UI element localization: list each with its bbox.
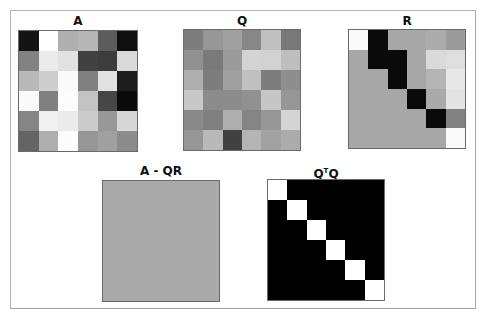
matrix-cell xyxy=(261,30,280,50)
matrix-cell xyxy=(426,128,445,148)
matrix-cell xyxy=(281,50,300,70)
matrix-cell xyxy=(368,128,387,148)
matrix-cell xyxy=(117,71,137,91)
matrix-cell xyxy=(281,130,300,150)
matrix-cell xyxy=(368,109,387,129)
heatmap-r xyxy=(348,29,466,149)
heatmap-a xyxy=(18,30,138,152)
matrix-cell xyxy=(388,109,407,129)
matrix-cell xyxy=(39,111,59,131)
matrix-cell xyxy=(349,128,368,148)
matrix-cell xyxy=(388,69,407,89)
matrix-cell xyxy=(261,90,280,110)
matrix-cell xyxy=(388,30,407,50)
matrix-cell xyxy=(365,180,384,200)
matrix-cell xyxy=(261,70,280,90)
matrix-cell xyxy=(281,30,300,50)
matrix-cell xyxy=(345,240,364,260)
matrix-cell xyxy=(349,69,368,89)
matrix-cell xyxy=(268,240,287,260)
matrix-cell xyxy=(98,91,118,111)
matrix-cell xyxy=(287,260,306,280)
matrix-cell xyxy=(365,200,384,220)
matrix-cell xyxy=(349,89,368,109)
heatmap-q xyxy=(183,29,301,151)
matrix-cell xyxy=(39,131,59,151)
matrix-cell xyxy=(287,220,306,240)
matrix-cell xyxy=(19,71,39,91)
matrix-cell xyxy=(345,200,364,220)
matrix-cell xyxy=(223,30,242,50)
matrix-cell xyxy=(223,110,242,130)
matrix-cell xyxy=(261,110,280,130)
matrix-cell xyxy=(326,180,345,200)
matrix-cell xyxy=(223,70,242,90)
matrix-cell xyxy=(242,130,261,150)
matrix-cell xyxy=(307,260,326,280)
matrix-cell xyxy=(268,200,287,220)
matrix-cell xyxy=(184,110,203,130)
matrix-cell xyxy=(426,69,445,89)
matrix-cell xyxy=(407,109,426,129)
matrix-cell xyxy=(78,131,98,151)
matrix-cell xyxy=(446,30,465,50)
matrix-cell xyxy=(98,71,118,91)
matrix-cell xyxy=(426,50,445,70)
matrix-cell xyxy=(203,70,222,90)
matrix-cell xyxy=(58,71,78,91)
matrix-cell xyxy=(407,30,426,50)
heatmap-residual xyxy=(102,180,220,302)
matrix-cell xyxy=(365,240,384,260)
matrix-cell xyxy=(223,90,242,110)
matrix-cell xyxy=(184,30,203,50)
matrix-cell xyxy=(39,91,59,111)
matrix-cell xyxy=(78,71,98,91)
matrix-cell xyxy=(345,280,364,300)
panel-title-residual: A - QR xyxy=(102,164,220,178)
matrix-cell xyxy=(58,31,78,51)
matrix-cell xyxy=(446,109,465,129)
matrix-cell xyxy=(326,240,345,260)
matrix-cell xyxy=(368,89,387,109)
matrix-cell xyxy=(39,71,59,91)
matrix-cell xyxy=(58,131,78,151)
matrix-cell xyxy=(287,240,306,260)
matrix-cell xyxy=(365,280,384,300)
matrix-cell xyxy=(365,260,384,280)
matrix-cell xyxy=(326,280,345,300)
matrix-cell xyxy=(242,30,261,50)
matrix-cell xyxy=(242,110,261,130)
matrix-cell xyxy=(349,109,368,129)
matrix-cell xyxy=(268,220,287,240)
matrix-cell xyxy=(426,109,445,129)
matrix-cell xyxy=(58,111,78,131)
matrix-cell xyxy=(307,200,326,220)
matrix-cell xyxy=(307,280,326,300)
matrix-cell xyxy=(446,69,465,89)
matrix-cell xyxy=(203,130,222,150)
matrix-cell xyxy=(368,30,387,50)
matrix-cell xyxy=(287,280,306,300)
matrix-cell xyxy=(203,90,222,110)
matrix-cell xyxy=(19,131,39,151)
matrix-cell xyxy=(307,240,326,260)
matrix-cell xyxy=(307,220,326,240)
matrix-cell xyxy=(345,180,364,200)
matrix-cell xyxy=(117,31,137,51)
matrix-cell xyxy=(98,111,118,131)
matrix-cell xyxy=(287,200,306,220)
matrix-cell xyxy=(203,110,222,130)
panel-title-a: A xyxy=(18,14,138,28)
matrix-cell xyxy=(78,31,98,51)
heatmap-qtq xyxy=(267,179,385,301)
matrix-cell xyxy=(261,50,280,70)
matrix-cell xyxy=(117,91,137,111)
matrix-cell xyxy=(349,50,368,70)
matrix-cell xyxy=(388,89,407,109)
matrix-cell xyxy=(326,200,345,220)
matrix-cell xyxy=(78,51,98,71)
matrix-cell xyxy=(78,91,98,111)
matrix-cell xyxy=(388,50,407,70)
matrix-cell xyxy=(98,31,118,51)
matrix-cell xyxy=(268,280,287,300)
